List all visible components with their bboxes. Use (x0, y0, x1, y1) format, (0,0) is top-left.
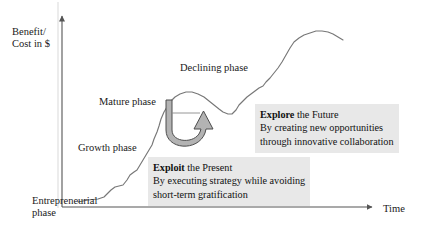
callout-exploit-line3: short-term gratification (153, 189, 248, 200)
lifecycle-diagram: Benefit/Cost in $ Time Entrepreneurialph… (0, 0, 433, 239)
callout-exploit: Exploit the PresentBy executing strategy… (148, 157, 310, 206)
phase-label-mature: Mature phase (99, 96, 156, 108)
phase-label-entrepreneurial: Entrepreneurialphase (32, 195, 97, 220)
callout-explore: Explore the FutureBy creating new opport… (255, 104, 399, 153)
callout-exploit-first-line-rest: the Present (185, 162, 233, 173)
callout-exploit-line2: By executing strategy while avoiding (153, 175, 305, 186)
callout-explore-first-line-rest: the Future (294, 109, 338, 120)
y-axis-label-line1: Benefit/ (12, 26, 46, 37)
callout-explore-line2: By creating new opportunities (260, 122, 383, 133)
callout-exploit-keyword: Exploit (153, 162, 185, 173)
callout-explore-line3: through innovative collaboration (260, 136, 394, 147)
phase-label-entrepreneurial-line1: Entrepreneurial (32, 195, 97, 206)
u-turn-arrow-icon (166, 100, 213, 149)
x-axis-label: Time (383, 203, 405, 215)
phase-label-entrepreneurial-line2: phase (32, 207, 56, 218)
phase-label-declining: Declining phase (180, 62, 248, 74)
y-axis-label: Benefit/Cost in $ (12, 26, 50, 51)
callout-explore-keyword: Explore (260, 109, 294, 120)
y-axis-label-line2: Cost in $ (12, 38, 50, 49)
phase-label-growth: Growth phase (78, 142, 137, 154)
